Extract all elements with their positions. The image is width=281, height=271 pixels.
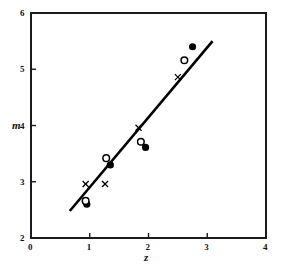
marker-filled-circle	[107, 161, 114, 168]
x-tick-label-3: 3	[204, 243, 209, 252]
y-tick-label-5: 5	[20, 65, 25, 74]
plot-canvas	[0, 0, 281, 271]
scatter-plot-figure: 01234 23456 z m	[0, 0, 281, 271]
data-markers	[82, 43, 196, 208]
marker-filled-circle	[189, 43, 196, 50]
x-tick-label-4: 4	[263, 243, 268, 252]
fit-line-segment	[70, 41, 213, 211]
marker-cross	[175, 74, 181, 80]
x-axis-label: z	[144, 252, 148, 263]
marker-open-circle	[82, 198, 89, 205]
y-tick-label-2: 2	[20, 234, 25, 243]
x-tick-label-0: 0	[28, 243, 33, 252]
x-tick-label-1: 1	[87, 243, 92, 252]
y-axis-label: m	[12, 120, 21, 131]
marker-cross	[83, 181, 89, 187]
marker-cross	[102, 181, 108, 187]
regression-line	[70, 41, 213, 211]
marker-open-circle	[103, 155, 110, 162]
marker-open-circle	[181, 57, 188, 64]
y-tick-label-6: 6	[20, 9, 25, 18]
y-tick-label-3: 3	[20, 178, 25, 187]
marker-open-circle	[138, 139, 145, 146]
axes-frame	[31, 13, 266, 238]
